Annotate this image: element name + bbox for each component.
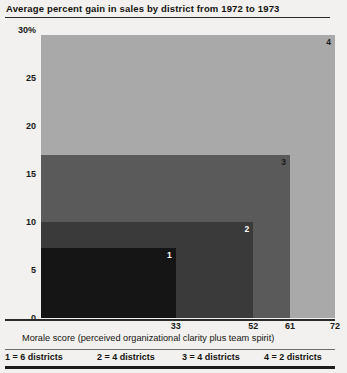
title-divider bbox=[5, 17, 330, 18]
x-tick-2: 61 bbox=[270, 321, 310, 331]
x-tick-0: 33 bbox=[156, 321, 196, 331]
y-axis-ticks: 30% 25 20 15 10 5 0 bbox=[0, 0, 36, 373]
y-tick-2: 20 bbox=[26, 121, 36, 131]
y-tick-1: 25 bbox=[26, 73, 36, 83]
legend-item-4: 4 = 2 districts bbox=[264, 352, 322, 362]
chart-container: Average percent gain in sales by distric… bbox=[0, 0, 347, 373]
y-tick-6: 0 bbox=[31, 313, 36, 323]
legend: 1 = 6 districts 2 = 4 districts 3 = 4 di… bbox=[5, 352, 335, 366]
chart-title: Average percent gain in sales by distric… bbox=[6, 3, 280, 14]
legend-divider-bottom bbox=[5, 366, 335, 369]
x-axis-label: Morale score (perceived organizational c… bbox=[22, 333, 274, 343]
legend-item-1: 1 = 6 districts bbox=[5, 352, 63, 362]
y-tick-3: 15 bbox=[26, 169, 36, 179]
bar-label-1: 1 bbox=[167, 251, 172, 260]
legend-item-3: 3 = 4 districts bbox=[182, 352, 240, 362]
y-tick-0: 30% bbox=[18, 25, 36, 35]
bar-label-4: 4 bbox=[326, 38, 331, 47]
plot-area: 4 3 2 1 bbox=[41, 30, 335, 318]
y-tick-4: 10 bbox=[26, 217, 36, 227]
bar-label-2: 2 bbox=[245, 225, 250, 234]
x-tick-1: 52 bbox=[233, 321, 273, 331]
y-tick-5: 5 bbox=[31, 265, 36, 275]
bar-series-1: 1 bbox=[41, 248, 176, 318]
legend-item-2: 2 = 4 districts bbox=[97, 352, 155, 362]
x-tick-3: 72 bbox=[315, 321, 347, 331]
legend-divider-top bbox=[5, 349, 335, 350]
bar-label-3: 3 bbox=[281, 158, 286, 167]
